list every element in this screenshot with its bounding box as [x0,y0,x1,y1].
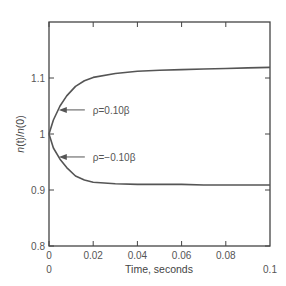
curve-positive-reactivity [49,67,270,134]
annotations: ρ=0.10βρ=−0.10β [59,105,136,163]
x-tick-label: 0 [46,250,52,261]
chart: 00.020.040.060.080.80.911.1 ρ=0.10βρ=−0.… [0,0,286,286]
y-title-0: (0) [14,115,26,128]
x-axis-end-label: 0.1 [263,264,277,275]
x-tick-label: 0.04 [128,250,148,261]
x-axis-title: Time, seconds [125,263,193,275]
y-tick-label: 1.1 [31,73,45,84]
x-tick-label: 0.06 [172,250,192,261]
plot-frame [49,22,270,246]
y-tick-label: 1 [39,129,45,140]
axis-ticks: 00.020.040.060.080.80.911.1 [31,22,270,261]
x-axis-zero-label-below: 0 [46,264,52,275]
y-tick-label: 0.8 [31,241,45,252]
annotation-negative: ρ=−0.10β [93,152,136,163]
x-tick-label: 0.02 [83,250,103,261]
curve-negative-reactivity [49,134,270,185]
x-tick-label: 0.08 [216,250,236,261]
plot-border [49,22,270,246]
arrowhead-icon [59,107,67,113]
y-tick-label: 0.9 [31,185,45,196]
annotation-positive: ρ=0.10β [93,105,130,116]
data-curves [49,67,270,185]
y-axis-title: n(t)/n(0) [14,115,26,152]
y-title-t: (t)/ [14,134,26,147]
